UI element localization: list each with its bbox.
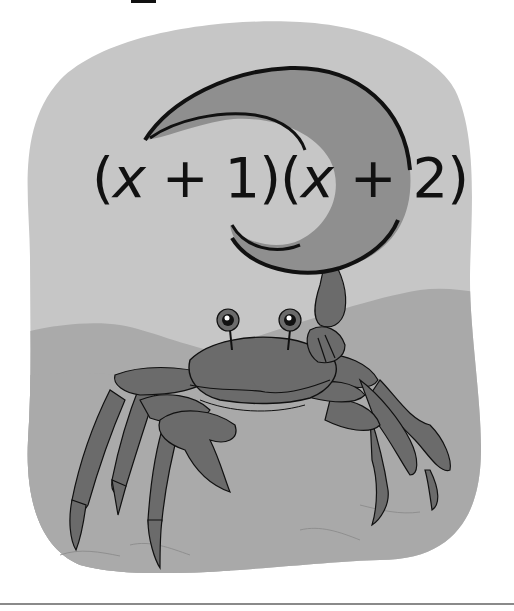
- expr-term-1: + 1)(: [145, 145, 301, 210]
- expr-variable-x: x: [301, 145, 333, 210]
- expr-term-2: + 2): [333, 145, 468, 210]
- math-expression: (x + 1)(x + 2): [92, 150, 468, 206]
- crab-illustration: [0, 0, 514, 611]
- expr-paren: (: [92, 145, 113, 210]
- bottom-rule: [0, 603, 514, 605]
- expr-variable-x: x: [113, 145, 145, 210]
